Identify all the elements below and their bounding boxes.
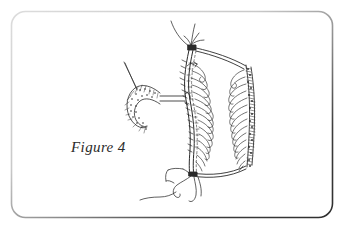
mucosal-folds-right [229, 70, 247, 171]
suture-knot-block [188, 45, 196, 50]
mucosal-folds-left [191, 64, 213, 171]
needle-tag-marker [187, 62, 197, 67]
suture-knot-top [171, 21, 204, 46]
resected-segment [127, 86, 160, 128]
serosal-top-edge [196, 48, 246, 69]
needle-thread-left [124, 62, 137, 90]
figure-caption: Figure 4 [71, 139, 126, 156]
anatomical-illustration [0, 0, 352, 236]
suture-block-bottom [189, 172, 197, 176]
serosal-bottom-edge [192, 166, 246, 177]
